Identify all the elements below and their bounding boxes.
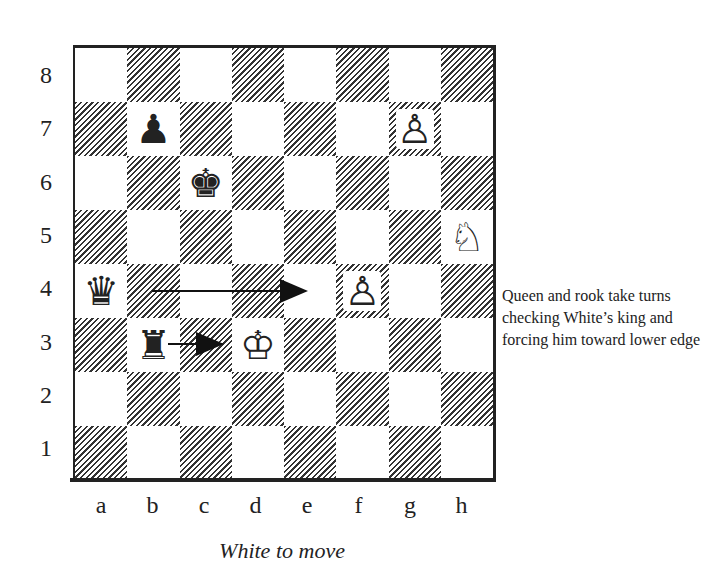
caption: White to move <box>72 538 492 564</box>
arrow-icon <box>168 332 224 356</box>
annotation-note: Queen and rook take turns checking White… <box>502 285 712 351</box>
arrow-icon <box>152 279 308 303</box>
